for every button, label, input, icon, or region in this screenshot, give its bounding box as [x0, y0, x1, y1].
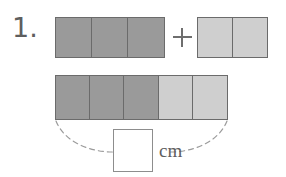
addend-b-bar: [197, 17, 268, 58]
unit-label-cm: cm: [159, 141, 182, 160]
addend-a-segment-1: [56, 18, 92, 57]
total-segment-4: [159, 76, 193, 119]
question-number: 1.: [12, 14, 38, 41]
total-segment-2: [90, 76, 124, 119]
total-bar: [55, 75, 228, 120]
plus-operator-icon: [173, 28, 192, 47]
addend-b-segment-1: [198, 18, 233, 57]
addend-a-segment-3: [128, 18, 164, 57]
addend-a-segment-2: [92, 18, 128, 57]
total-segment-3: [124, 76, 158, 119]
answer-input-box[interactable]: [113, 129, 153, 172]
addend-b-segment-2: [233, 18, 268, 57]
total-segment-5: [193, 76, 227, 119]
worksheet-canvas: 1. cm: [0, 0, 286, 177]
brace-curve-left: [56, 121, 113, 152]
total-segment-1: [56, 76, 90, 119]
addend-a-bar: [55, 17, 165, 58]
